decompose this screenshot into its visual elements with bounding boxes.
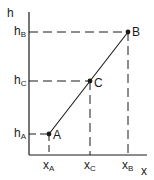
point-C [88, 79, 93, 84]
point-label-A: A [53, 129, 61, 141]
point-label-C: C [94, 77, 103, 89]
x-label-C: xC [84, 159, 96, 173]
point-label-B: B [132, 26, 140, 38]
point-A [47, 132, 52, 137]
y-axis-label: h [7, 7, 14, 19]
h-label-B: hB [14, 25, 26, 39]
point-B [126, 30, 131, 35]
h-label-A: hA [14, 127, 26, 141]
x-label-A: xA [43, 159, 54, 173]
h-label-C: hC [14, 74, 26, 88]
line-A-B [49, 32, 128, 134]
x-axis-label: x [141, 165, 147, 177]
x-label-B: xB [122, 159, 133, 173]
